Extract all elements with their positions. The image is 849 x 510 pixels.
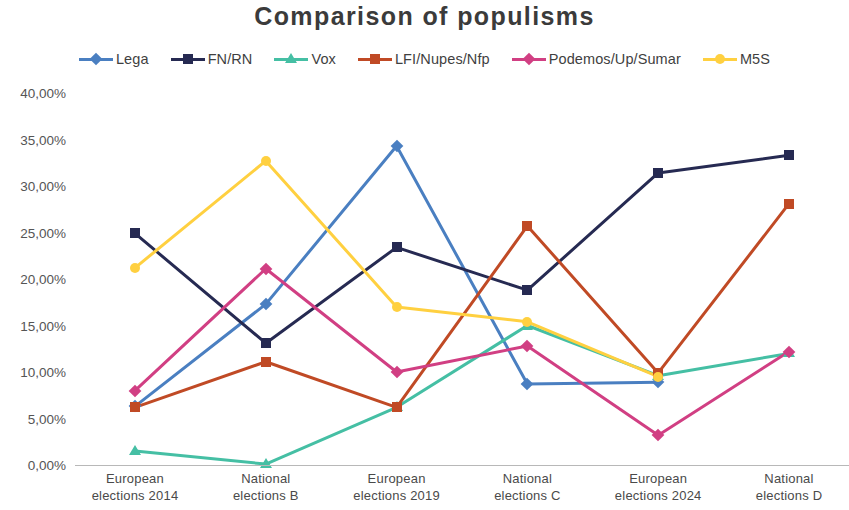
data-point-m5s-0[interactable] [130, 263, 140, 273]
data-point-fn-rn-1[interactable] [261, 338, 271, 348]
data-point-fn-rn-0[interactable] [130, 228, 140, 238]
data-point-m5s-3[interactable] [522, 317, 532, 327]
y-axis-tick-label: 0,00% [0, 458, 66, 473]
y-axis-tick-label: 30,00% [0, 179, 66, 194]
y-axis-tick-label: 40,00% [0, 86, 66, 101]
data-point-m5s-2[interactable] [392, 302, 402, 312]
x-axis: Europeanelections 2014Nationalelections … [75, 470, 849, 510]
legend-item-podemos-up-sumar[interactable]: Podemos/Up/Sumar [512, 51, 681, 67]
legend-label: FN/RN [205, 51, 253, 67]
data-point-fn-rn-3[interactable] [522, 285, 532, 295]
data-point-lfi-nupes-nfp-5[interactable] [784, 199, 794, 209]
legend-item-lfi-nupes-nfp[interactable]: LFI/Nupes/Nfp [358, 51, 490, 67]
data-point-fn-rn-2[interactable] [392, 242, 402, 252]
marker-square-icon [183, 54, 193, 64]
plot-area [75, 93, 849, 465]
legend-item-fn-rn[interactable]: FN/RN [171, 51, 253, 67]
x-axis-tick-label: Nationalelections C [457, 470, 597, 504]
x-tick-line-1: National [719, 470, 849, 487]
legend-label: Lega [113, 51, 149, 67]
x-tick-line-2: elections 2024 [588, 487, 728, 504]
data-point-vox-0[interactable] [129, 445, 141, 455]
x-tick-line-1: European [65, 470, 205, 487]
data-point-lega-2[interactable] [390, 140, 403, 153]
data-point-lfi-nupes-nfp-3[interactable] [522, 221, 532, 231]
data-point-markers [75, 93, 849, 465]
x-axis-line [75, 465, 849, 466]
y-axis: 0,00%5,00%10,00%15,00%20,00%25,00%30,00%… [0, 93, 66, 465]
legend-label: LFI/Nupes/Nfp [392, 51, 490, 67]
marker-square-icon [370, 54, 380, 64]
y-axis-tick-label: 10,00% [0, 365, 66, 380]
x-tick-line-2: elections D [719, 487, 849, 504]
data-point-lega-3[interactable] [521, 378, 534, 391]
data-point-lega-1[interactable] [259, 298, 272, 311]
data-point-m5s-4[interactable] [653, 372, 663, 382]
legend-item-m5s[interactable]: M5S [703, 51, 770, 67]
marker-diamond-icon [522, 53, 535, 66]
legend-swatch [274, 52, 308, 66]
x-tick-line-1: National [196, 470, 336, 487]
x-axis-tick-label: Europeanelections 2024 [588, 470, 728, 504]
data-point-podemos-up-sumar-1[interactable] [259, 262, 272, 275]
legend-swatch [512, 52, 546, 66]
data-point-podemos-up-sumar-3[interactable] [521, 340, 534, 353]
legend-swatch [79, 52, 113, 66]
x-tick-line-2: elections C [457, 487, 597, 504]
y-axis-tick-label: 20,00% [0, 272, 66, 287]
x-axis-tick-label: Europeanelections 2019 [327, 470, 467, 504]
x-tick-line-2: elections B [196, 487, 336, 504]
data-point-podemos-up-sumar-4[interactable] [652, 429, 665, 442]
legend-swatch [358, 52, 392, 66]
chart-title: Comparison of populisms [0, 2, 849, 31]
chart-container: Comparison of populisms LegaFN/RNVoxLFI/… [0, 0, 849, 510]
x-tick-line-1: National [457, 470, 597, 487]
y-axis-tick-label: 35,00% [0, 132, 66, 147]
x-axis-tick-label: Nationalelections D [719, 470, 849, 504]
marker-circle-icon [715, 54, 725, 64]
data-point-lfi-nupes-nfp-0[interactable] [130, 402, 140, 412]
legend-swatch [171, 52, 205, 66]
marker-diamond-icon [90, 53, 103, 66]
y-axis-tick-label: 5,00% [0, 411, 66, 426]
legend-label: Vox [308, 51, 336, 67]
data-point-vox-1[interactable] [260, 458, 272, 468]
data-point-fn-rn-5[interactable] [784, 150, 794, 160]
legend-item-lega[interactable]: Lega [79, 51, 149, 67]
data-point-fn-rn-4[interactable] [653, 168, 663, 178]
chart-legend: LegaFN/RNVoxLFI/Nupes/NfpPodemos/Up/Suma… [0, 46, 849, 72]
x-tick-line-1: European [588, 470, 728, 487]
data-point-m5s-1[interactable] [261, 156, 271, 166]
data-point-lfi-nupes-nfp-1[interactable] [261, 357, 271, 367]
legend-label: Podemos/Up/Sumar [546, 51, 681, 67]
x-tick-line-2: elections 2014 [65, 487, 205, 504]
y-axis-tick-label: 15,00% [0, 318, 66, 333]
legend-swatch [703, 52, 737, 66]
data-point-podemos-up-sumar-2[interactable] [390, 366, 403, 379]
x-tick-line-1: European [327, 470, 467, 487]
data-point-lfi-nupes-nfp-2[interactable] [392, 402, 402, 412]
marker-triangle-icon [285, 53, 297, 63]
x-tick-line-2: elections 2019 [327, 487, 467, 504]
y-axis-tick-label: 25,00% [0, 225, 66, 240]
x-axis-tick-label: Nationalelections B [196, 470, 336, 504]
data-point-podemos-up-sumar-0[interactable] [129, 384, 142, 397]
legend-item-vox[interactable]: Vox [274, 51, 336, 67]
legend-label: M5S [737, 51, 770, 67]
x-axis-tick-label: Europeanelections 2014 [65, 470, 205, 504]
